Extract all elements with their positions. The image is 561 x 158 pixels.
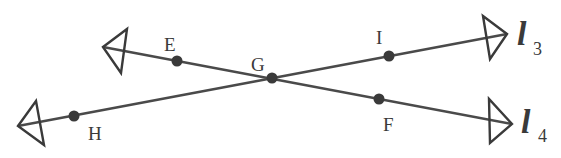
arrowhead-l4-left-icon (103, 29, 127, 73)
label-l4-subscript: 4 (538, 126, 547, 146)
line-l3 (18, 34, 507, 126)
label-F: F (383, 114, 394, 135)
label-G: G (251, 54, 265, 75)
label-I: I (376, 27, 382, 48)
label-H: H (88, 123, 102, 144)
point-E (172, 56, 183, 67)
label-l3: l (517, 15, 527, 52)
label-E: E (164, 34, 176, 55)
label-l3-subscript: 3 (533, 39, 542, 59)
geometry-diagram: E G I H F l 3 l 4 (0, 0, 561, 158)
point-H (69, 111, 80, 122)
line-l4 (103, 47, 512, 124)
point-I (384, 51, 395, 62)
label-l4: l (521, 103, 531, 140)
point-G (267, 73, 278, 84)
point-F (374, 94, 385, 105)
